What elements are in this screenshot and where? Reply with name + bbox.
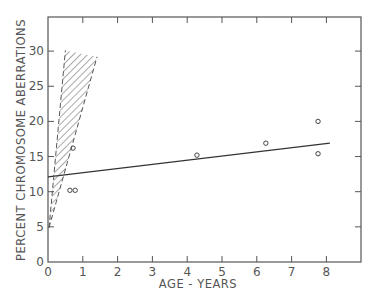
x-tick-label: 8 — [323, 265, 331, 279]
y-tick-label: 30 — [29, 44, 44, 58]
y-tick-label: 5 — [36, 220, 44, 234]
x-tick-label: 0 — [44, 265, 52, 279]
y-tick-label: 0 — [36, 255, 44, 269]
data-series — [48, 50, 330, 227]
y-axis-title: PERCENT CHROMOSOME ABERRATIONS — [14, 19, 28, 261]
data-point — [73, 188, 77, 192]
x-tick-label: 6 — [253, 265, 261, 279]
x-tick-label: 7 — [288, 265, 296, 279]
data-point — [195, 153, 199, 157]
data-point — [264, 141, 268, 145]
y-tick-label: 10 — [29, 185, 44, 199]
y-tick-label: 20 — [29, 114, 44, 128]
x-tick-label: 3 — [149, 265, 157, 279]
regression-line — [48, 143, 330, 177]
axis-ticks — [48, 17, 361, 262]
chart: 012345678051015202530 AGE - YEARS PERCEN… — [0, 0, 376, 300]
x-tick-label: 1 — [79, 265, 87, 279]
y-tick-label: 15 — [29, 150, 44, 164]
x-axis-title: AGE - YEARS — [159, 277, 237, 291]
data-point — [68, 188, 72, 192]
data-point — [316, 152, 320, 156]
data-point — [316, 119, 320, 123]
y-tick-label: 25 — [29, 79, 44, 93]
x-tick-label: 2 — [114, 265, 122, 279]
plot-frame — [48, 17, 361, 262]
